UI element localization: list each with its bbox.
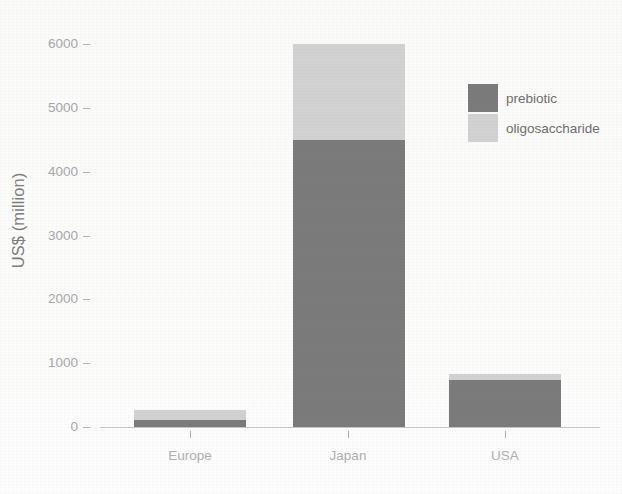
y-axis-tick-mark <box>83 236 90 237</box>
y-axis-tick-label: 3000 <box>48 228 78 244</box>
legend-label-oligosaccharide: oligosaccharide <box>506 121 600 136</box>
legend-swatch-oligosaccharide <box>468 114 498 142</box>
bar-group <box>293 0 405 427</box>
y-axis-ticks: 6000500040003000200010000 <box>28 0 90 494</box>
y-axis-tick-mark <box>83 44 90 45</box>
bar-segment-oligosaccharide <box>134 410 246 420</box>
x-axis-tick-mark <box>190 431 191 438</box>
bar-segment-prebiotic <box>449 380 561 427</box>
bar-group <box>134 0 246 427</box>
bar-segment-oligosaccharide <box>293 44 405 140</box>
y-axis-tick-label: 0 <box>70 419 78 435</box>
y-axis-tick-label: 4000 <box>48 164 78 180</box>
legend-label-prebiotic: prebiotic <box>506 91 557 106</box>
x-axis-tick-label: Japan <box>330 448 367 463</box>
bar-segment-prebiotic <box>293 140 405 427</box>
x-axis-tick-label: USA <box>491 448 519 463</box>
y-axis-tick-mark <box>83 172 90 173</box>
x-axis-tick-mark <box>505 431 506 438</box>
legend-item-prebiotic: prebiotic <box>468 83 618 113</box>
legend-swatch-prebiotic <box>468 84 498 112</box>
y-axis-tick-mark <box>83 108 90 109</box>
y-axis-tick-mark <box>83 363 90 364</box>
y-axis-tick-label: 5000 <box>48 100 78 116</box>
x-axis-tick-mark <box>348 431 349 438</box>
chart-legend: prebiotic oligosaccharide <box>468 83 618 143</box>
y-axis-tick-label: 6000 <box>48 36 78 52</box>
y-axis-tick-label: 1000 <box>48 355 78 371</box>
bar-group <box>449 0 561 427</box>
stacked-bar-chart: US$ (million) 6000500040003000200010000 … <box>0 0 622 494</box>
bar-segment-prebiotic <box>134 420 246 427</box>
x-axis-line <box>100 427 600 428</box>
y-axis-tick-label: 2000 <box>48 291 78 307</box>
legend-item-oligosaccharide: oligosaccharide <box>468 113 618 143</box>
x-axis-tick-label: Europe <box>168 448 212 463</box>
y-axis-tick-mark <box>83 299 90 300</box>
bar-segment-oligosaccharide <box>449 374 561 380</box>
y-axis-tick-mark <box>83 427 90 428</box>
